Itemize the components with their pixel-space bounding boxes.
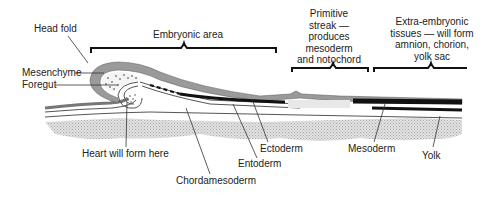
yolk-mass bbox=[45, 118, 462, 141]
label-heart: Heart will form here bbox=[82, 148, 169, 160]
label-embryonic-area: Embryonic area bbox=[153, 29, 223, 41]
label-ectoderm: Ectoderm bbox=[260, 143, 303, 155]
primitive-streak-region bbox=[288, 100, 350, 108]
label-mesoderm: Mesoderm bbox=[348, 143, 395, 155]
mesoderm-bar-lower bbox=[372, 108, 462, 110]
extra-embryonic-bracket bbox=[374, 63, 467, 72]
embryonic-area-bracket bbox=[91, 43, 276, 53]
heart-leader bbox=[126, 102, 127, 147]
head-fold-leader bbox=[68, 36, 88, 63]
label-foregut: Foregut bbox=[22, 79, 56, 91]
label-primitive-streak: Primitive streak — produces mesoderm and… bbox=[290, 8, 368, 66]
label-chordamesoderm: Chordamesoderm bbox=[176, 175, 256, 187]
label-entoderm: Entoderm bbox=[238, 158, 281, 170]
mesoderm-bar-upper bbox=[353, 101, 462, 102]
entoderm-layer bbox=[45, 112, 462, 118]
label-extra-embryonic: Extra-embryonic tissues — will form amni… bbox=[382, 16, 482, 62]
label-head-fold: Head fold bbox=[34, 23, 77, 35]
chordamesoderm-leader bbox=[186, 108, 210, 174]
label-mesenchyme: Mesenchyme bbox=[22, 67, 81, 79]
label-yolk: Yolk bbox=[422, 150, 441, 162]
